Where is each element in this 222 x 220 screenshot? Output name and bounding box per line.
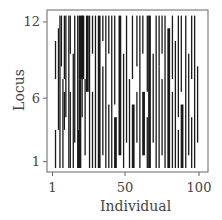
heatmap-cells bbox=[55, 16, 198, 168]
x-axis-label: Individual bbox=[100, 198, 171, 214]
heatmap-cell bbox=[197, 66, 198, 142]
x-tick-label: 100 bbox=[187, 180, 212, 195]
heatmap-cell bbox=[61, 16, 62, 67]
heatmap-cell bbox=[175, 41, 176, 168]
x-tick-label: 1 bbox=[48, 180, 56, 195]
heatmap-cell bbox=[64, 92, 65, 130]
heatmap-cell bbox=[111, 16, 112, 168]
heatmap-cell bbox=[108, 105, 109, 169]
x-tick-label: 50 bbox=[117, 180, 134, 195]
heatmap-cell bbox=[98, 16, 101, 168]
heatmap-cell bbox=[142, 16, 143, 54]
heatmap-cell bbox=[59, 16, 60, 168]
heatmap-cell bbox=[114, 117, 117, 168]
heatmap-cell bbox=[172, 16, 173, 80]
heatmap-cell bbox=[161, 79, 162, 155]
heatmap-cell bbox=[119, 16, 122, 156]
heatmap-cell bbox=[142, 92, 145, 156]
y-axis-label: Locus bbox=[11, 69, 27, 111]
plot-frame bbox=[47, 10, 208, 172]
heatmap-cell bbox=[136, 16, 137, 67]
heatmap-cell bbox=[105, 16, 106, 168]
heatmap-cell bbox=[161, 16, 162, 54]
heatmap-cell bbox=[158, 66, 159, 168]
heatmap-cell bbox=[181, 105, 184, 169]
heatmap-cell bbox=[64, 16, 65, 80]
heatmap-cell bbox=[178, 16, 179, 118]
heatmap-cell bbox=[70, 16, 71, 54]
heatmap-cell bbox=[114, 16, 115, 105]
heatmap-cell bbox=[194, 16, 195, 168]
heatmap-cell bbox=[172, 92, 173, 168]
heatmap-cell bbox=[132, 105, 135, 169]
heatmap-cell bbox=[108, 16, 109, 54]
y-tick-label: 12 bbox=[23, 14, 40, 29]
heatmap-cell bbox=[82, 16, 83, 118]
y-tick-label: 6 bbox=[32, 91, 40, 106]
heatmap-cell bbox=[181, 16, 182, 92]
heatmap-cell bbox=[86, 16, 89, 92]
heatmap-cell bbox=[92, 92, 93, 168]
heatmap-cell bbox=[77, 16, 78, 130]
heatmap-cell bbox=[74, 16, 75, 143]
heatmap-cell bbox=[55, 130, 56, 168]
x-axis-ticks: 150100 bbox=[48, 172, 211, 195]
heatmap-cell bbox=[89, 16, 90, 168]
heatmap-cell bbox=[164, 16, 165, 168]
heatmap-cell bbox=[132, 16, 133, 80]
heatmap-cell bbox=[126, 16, 127, 143]
heatmap-cell bbox=[178, 130, 179, 168]
heatmap-cell bbox=[191, 16, 192, 80]
heatmap-cell bbox=[95, 16, 96, 168]
heatmap-cell bbox=[136, 92, 137, 143]
heatmap-cell bbox=[102, 16, 103, 41]
heatmap-cell bbox=[123, 54, 124, 168]
heatmap-cell bbox=[68, 16, 69, 168]
heatmap-cell bbox=[167, 28, 170, 168]
heatmap-cell bbox=[153, 54, 154, 143]
heatmap-cell bbox=[73, 54, 74, 168]
heatmap-cell bbox=[55, 41, 56, 79]
heatmap-cell bbox=[139, 16, 140, 168]
heatmap-cell bbox=[188, 54, 189, 156]
heatmap-cell bbox=[84, 79, 85, 155]
heatmap-cell bbox=[148, 16, 151, 168]
heatmap-cell bbox=[129, 79, 130, 168]
heatmap-cell bbox=[147, 16, 148, 92]
heatmap-cell bbox=[102, 66, 103, 155]
y-tick-label: 1 bbox=[32, 154, 40, 169]
heatmap-cell bbox=[79, 79, 82, 130]
heatmap-cell bbox=[92, 16, 93, 54]
heatmap-cell bbox=[191, 117, 192, 168]
heatmap-cell bbox=[65, 16, 66, 118]
y-axis-ticks: 1612 bbox=[23, 14, 47, 169]
heatmap-cell bbox=[58, 28, 59, 130]
heatmap-cell bbox=[70, 92, 71, 168]
heatmap-cell bbox=[62, 79, 63, 168]
heatmap-cell bbox=[158, 16, 159, 67]
heatmap-cell bbox=[147, 117, 148, 168]
heatmap-cell bbox=[185, 16, 186, 168]
heatmap-cell bbox=[156, 16, 157, 168]
heatmap-cell bbox=[79, 16, 85, 80]
heatmap-chart: 150100 1612 bbox=[0, 0, 222, 220]
heatmap-cell bbox=[77, 130, 81, 168]
